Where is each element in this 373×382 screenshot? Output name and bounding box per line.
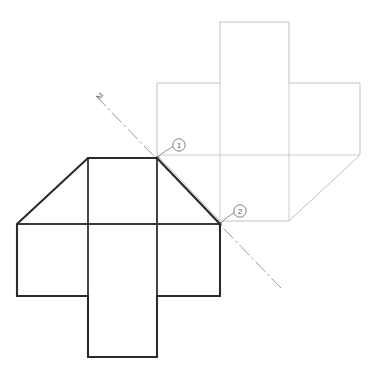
solid-figure-group [17, 158, 220, 357]
drawing-svg: M 1 2 [0, 0, 373, 382]
symmetry-axis-label: M [94, 91, 105, 101]
balloon-1-label: 1 [177, 141, 182, 150]
balloon-callout-2[interactable]: 2 [221, 205, 247, 224]
balloon-1-leader-line [158, 146, 174, 157]
solid-net-outline [17, 158, 220, 357]
balloon-2-label: 2 [238, 207, 243, 216]
technical-drawing-canvas: M 1 2 [0, 0, 373, 382]
balloon-2-leader-line [221, 213, 235, 224]
